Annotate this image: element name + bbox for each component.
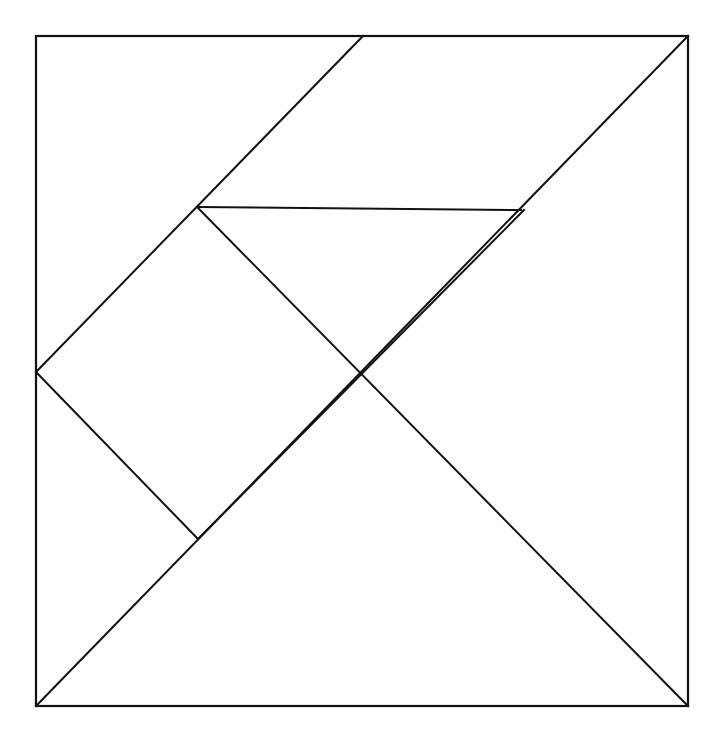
figure-canvas <box>0 0 713 743</box>
tangram-diagram <box>0 0 713 743</box>
